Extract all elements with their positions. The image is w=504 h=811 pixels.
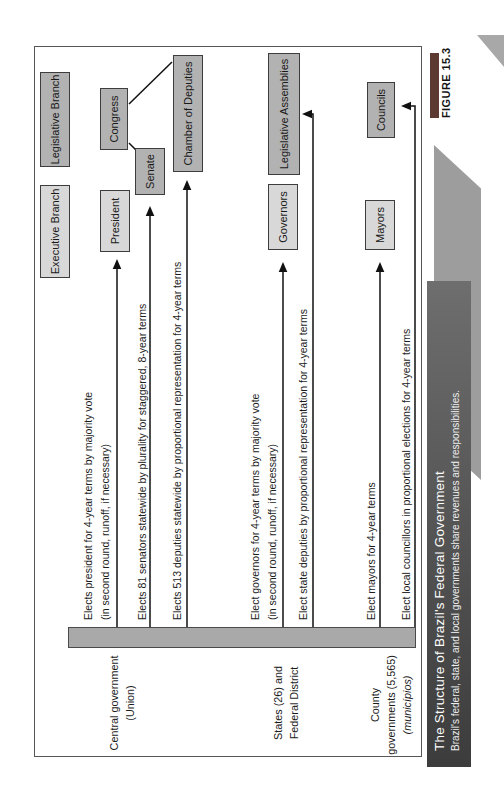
row-label-county: County governments (5,565) (municípios) [367, 651, 415, 759]
node-president: President [100, 190, 130, 252]
row-label-line: Central government [106, 655, 122, 751]
header-executive-branch: Executive Branch [40, 185, 70, 278]
arrow-label-governors-2: (in second round, runoff, if necessary) [266, 444, 278, 620]
figure-subtitle: Brazil's federal, state, and local gover… [450, 281, 461, 751]
arrow-label-councils: Elect local councillors in proportional … [400, 329, 412, 620]
arrow-label-governors-1: Elect governors for 4-year terms by majo… [249, 394, 261, 620]
row-label-line: Federal District [286, 655, 302, 751]
node-legislative-assemblies: Legislative Assemblies [268, 53, 300, 175]
header-legislative-branch: Legislative Branch [40, 72, 70, 167]
arrow-label-mayors: Elect mayors for 4-year terms [365, 482, 377, 620]
row-label-line: States (26) and [270, 655, 286, 751]
arrow-label-president-1: Elects president for 4-year terms by maj… [82, 392, 94, 620]
node-mayors: Mayors [365, 200, 395, 250]
row-label-line: (Union) [122, 655, 138, 751]
node-councils: Councils [367, 82, 395, 138]
row-label-states: States (26) and Federal District [270, 655, 302, 751]
electorate-spine-bar [68, 627, 416, 648]
arrow-label-assemblies: Elect state deputies by proportional rep… [297, 309, 309, 620]
row-label-line-municipios: (municípios) [399, 651, 415, 759]
decorative-corner-triangle [477, 35, 504, 67]
row-label-line: County [367, 651, 383, 759]
figure-number-label: FIGURE 15.3 [440, 48, 452, 118]
node-chamber-of-deputies: Chamber of Deputies [173, 55, 203, 172]
node-senate: Senate [135, 148, 165, 195]
arrow-label-senate: Elects 81 senators statewide by pluralit… [136, 304, 148, 620]
arrow-label-president-2: (in second round, runoff, if necessary) [99, 444, 111, 620]
figure-title: The Structure of Brazil's Federal Govern… [432, 281, 447, 751]
rotated-figure-canvas: Central government (Union) States (26) a… [0, 0, 504, 811]
arrow-label-chamber: Elects 513 deputies statewide by proport… [171, 262, 183, 620]
figure-tab-bar [430, 53, 439, 118]
figure-caption-bar: The Structure of Brazil's Federal Govern… [427, 281, 471, 767]
page: Central government (Union) States (26) a… [0, 0, 504, 811]
node-governors: Governors [268, 184, 298, 250]
row-label-central-government: Central government (Union) [106, 655, 138, 751]
node-congress: Congress [100, 88, 128, 150]
row-label-line: governments (5,565) [383, 651, 399, 759]
